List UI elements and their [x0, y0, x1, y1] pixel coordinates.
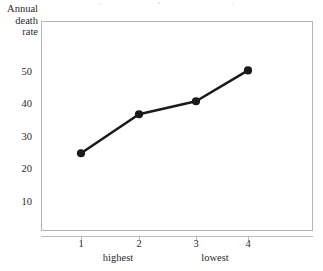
data-point-1: [77, 149, 85, 157]
series-markers: [77, 66, 252, 157]
data-point-4: [244, 66, 252, 74]
data-point-3: [192, 97, 200, 105]
data-series-line: [0, 0, 323, 271]
chart-figure: Annual death rate 50 40 30 20 10 1 2 3 4…: [0, 0, 323, 271]
series-polyline: [81, 70, 248, 153]
data-point-2: [135, 110, 143, 118]
